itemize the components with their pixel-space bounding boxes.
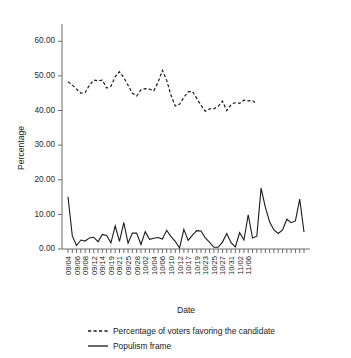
chart-legend: Percentage of voters favoring the candid… (88, 326, 275, 351)
legend-label-voters: Percentage of voters favoring the candid… (113, 326, 275, 336)
x-axis-title: Date (177, 305, 195, 315)
series-voters-favoring-candidate (68, 70, 257, 111)
x-axis-tick-labels: 09/0409/0609/0809/1209/1409/1909/2109/25… (64, 256, 253, 275)
line-chart: Percentage 0.0010.0020.0030.0040.0050.00… (0, 0, 351, 358)
y-tick-label: 10.00 (35, 210, 56, 219)
y-tick-label: 50.00 (35, 71, 56, 80)
y-tick-label: 30.00 (35, 140, 56, 149)
y-tick-label: 0.00 (39, 244, 55, 253)
x-axis-ticks (68, 249, 304, 253)
series-populism-frame (68, 188, 304, 248)
y-axis-ticks: 0.0010.0020.0030.0040.0050.0060.00 (35, 36, 63, 253)
y-tick-label: 20.00 (35, 175, 56, 184)
legend-label-populism: Populism frame (113, 341, 172, 351)
data-series-group (68, 70, 304, 248)
chart-figure: Percentage 0.0010.0020.0030.0040.0050.00… (0, 0, 351, 358)
y-tick-label: 40.00 (35, 106, 56, 115)
x-tick-label: 11/06 (244, 256, 253, 274)
y-tick-label: 60.00 (35, 36, 56, 45)
y-axis-title: Percentage (16, 126, 26, 170)
